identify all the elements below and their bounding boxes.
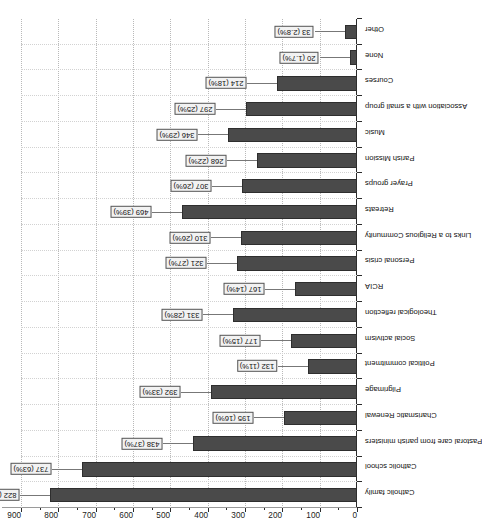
value-axis-tick-label: 0: [352, 511, 357, 520]
category-gridline: [21, 481, 357, 482]
category-gridline: [21, 430, 357, 431]
label-leader-line: [181, 392, 211, 393]
category-tick: [357, 327, 362, 328]
bar[interactable]: [50, 488, 357, 502]
label-leader-line: [211, 237, 241, 238]
data-label: 132 (11%): [236, 361, 276, 373]
bar[interactable]: [277, 76, 357, 90]
value-axis-tick-label: 700: [82, 511, 96, 520]
category-label: Catholic family: [365, 488, 414, 496]
bar[interactable]: [257, 153, 357, 167]
value-axis-tick-label: 600: [119, 511, 133, 520]
category-tick: [357, 404, 362, 405]
bar[interactable]: [246, 102, 357, 116]
axis-tick: [170, 508, 171, 512]
category-gridline: [21, 404, 357, 405]
data-label: 214 (18%): [206, 78, 247, 90]
category-label: Prayer groups: [365, 180, 413, 188]
category-label: Personal crisis: [365, 257, 414, 265]
bar[interactable]: [295, 282, 357, 296]
category-label: Charismatic Renewal: [365, 411, 437, 419]
bar[interactable]: [345, 25, 357, 39]
bar[interactable]: [82, 462, 357, 476]
category-tick: [357, 69, 362, 70]
data-label: 321 (27%): [166, 258, 207, 270]
axis-minor-tick: [264, 508, 265, 511]
label-leader-line: [20, 495, 50, 496]
data-label: 331 (28%): [162, 309, 203, 321]
bar[interactable]: [193, 436, 357, 450]
category-tick: [357, 121, 362, 122]
bar[interactable]: [242, 179, 357, 193]
value-axis-tick-label: 500: [157, 511, 171, 520]
category-tick: [357, 18, 362, 19]
label-leader-line: [265, 289, 295, 290]
category-gridline: [21, 95, 357, 96]
data-label: 346 (29%): [156, 129, 197, 141]
category-gridline: [21, 378, 357, 379]
axis-tick: [282, 508, 283, 512]
data-label: 469 (39%): [110, 206, 151, 218]
label-leader-line: [315, 31, 345, 32]
bar[interactable]: [228, 128, 357, 142]
category-gridline: [21, 301, 357, 302]
category-label: Links to a Religious Community: [365, 231, 471, 239]
bar[interactable]: [233, 308, 357, 322]
category-label: Courses: [365, 77, 393, 85]
category-label: Association with a small group: [365, 102, 467, 110]
label-leader-line: [207, 263, 237, 264]
category-tick: [357, 481, 362, 482]
category-label: Political commitment: [365, 360, 435, 368]
bar[interactable]: [237, 256, 357, 270]
axis-minor-tick: [338, 508, 339, 511]
plot-area: 0100200300400500600700800900 822 (70%)73…: [21, 19, 357, 508]
data-label: 195 (16%): [213, 412, 254, 424]
axis-tick: [58, 508, 59, 512]
bar[interactable]: [182, 205, 357, 219]
data-label: 438 (37%): [122, 438, 163, 450]
data-label: 20 (1.7%): [279, 52, 318, 64]
value-axis-tick-label: 200: [269, 511, 283, 520]
category-label: Parish Mission: [365, 154, 414, 162]
label-leader-line: [261, 340, 291, 341]
axis-minor-tick: [189, 508, 190, 511]
category-tick: [357, 456, 362, 457]
category-tick: [357, 301, 362, 302]
data-label: 822 (70%): [0, 489, 20, 501]
value-axis-tick-label: 800: [45, 511, 59, 520]
category-gridline: [21, 147, 357, 148]
category-label: None: [365, 51, 383, 59]
bar[interactable]: [291, 334, 357, 348]
axis-minor-tick: [226, 508, 227, 511]
data-label: 737 (63%): [10, 464, 51, 476]
category-gridline: [21, 353, 357, 354]
label-leader-line: [203, 314, 233, 315]
axis-minor-tick: [114, 508, 115, 511]
category-label: Pastoral care from parish ministers: [365, 437, 482, 445]
bar[interactable]: [284, 411, 357, 425]
gridline: [58, 19, 59, 508]
value-axis-tick-label: 300: [231, 511, 245, 520]
label-leader-line: [163, 443, 193, 444]
category-tick: [357, 224, 362, 225]
bar[interactable]: [241, 231, 357, 245]
category-tick: [357, 44, 362, 45]
category-gridline: [21, 69, 357, 70]
category-gridline: [21, 121, 357, 122]
label-leader-line: [227, 160, 257, 161]
category-label: Retreats: [365, 205, 394, 213]
value-axis-tick-label: 100: [306, 511, 320, 520]
bar[interactable]: [211, 385, 357, 399]
bar[interactable]: [350, 50, 357, 64]
data-label: 297 (25%): [175, 103, 216, 115]
category-tick: [357, 507, 362, 508]
data-label: 307 (26%): [171, 181, 212, 193]
value-axis-tick-label: 400: [194, 511, 208, 520]
category-gridline: [21, 224, 357, 225]
bar[interactable]: [308, 359, 357, 373]
data-label: 33 (2.8%): [274, 26, 313, 38]
category-label: Other: [365, 25, 384, 33]
category-label: RCIA: [365, 282, 383, 290]
axis-minor-tick: [40, 508, 41, 511]
